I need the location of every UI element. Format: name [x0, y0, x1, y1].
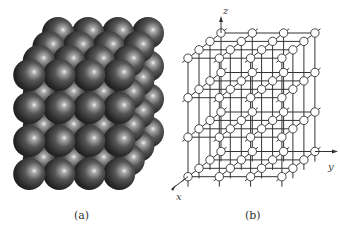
sphere: [73, 158, 105, 190]
sphere: [73, 59, 105, 91]
sphere: [43, 125, 75, 157]
lattice-node: [246, 54, 254, 62]
sphere: [13, 158, 45, 190]
lattice-node: [184, 133, 192, 141]
lattice-node: [311, 108, 319, 116]
lattice-node: [195, 85, 203, 93]
lattice-node: [268, 156, 276, 164]
lattice-node: [206, 37, 214, 45]
lattice-node: [226, 125, 234, 133]
lattice-node: [215, 133, 223, 141]
lattice-node: [289, 125, 297, 133]
lattice-node: [206, 77, 214, 85]
figure-canvas: zyx: [0, 0, 340, 236]
lattice-node: [257, 164, 265, 172]
lattice-node: [246, 94, 254, 102]
lattice-node: [289, 85, 297, 93]
lattice-node: [278, 173, 286, 181]
sphere: [73, 125, 105, 157]
lattice-node: [257, 85, 265, 93]
lattice-node: [300, 116, 308, 124]
lattice-node: [279, 29, 287, 37]
sphere: [103, 59, 135, 91]
lattice-node: [237, 37, 245, 45]
lattice-node: [195, 164, 203, 172]
lattice-node: [246, 173, 254, 181]
sphere: [43, 59, 75, 91]
lattice-node: [257, 125, 265, 133]
lattice-node: [237, 77, 245, 85]
lattice-node: [300, 77, 308, 85]
lattice-node: [215, 54, 223, 62]
lattice-node: [279, 68, 287, 76]
lattice-node: [215, 94, 223, 102]
lattice-node: [268, 77, 276, 85]
lattice-node: [248, 68, 256, 76]
lattice-node: [289, 164, 297, 172]
lattice-node: [206, 116, 214, 124]
lattice-node: [184, 54, 192, 62]
sphere: [103, 125, 135, 157]
sphere: [13, 125, 45, 157]
lattice-node: [217, 68, 225, 76]
lattice-node: [215, 173, 223, 181]
lattice-node: [184, 94, 192, 102]
lattice-node: [278, 94, 286, 102]
sphere: [13, 59, 45, 91]
lattice-node: [246, 133, 254, 141]
lattice-node: [195, 46, 203, 54]
lattice-node: [268, 116, 276, 124]
x-axis-label: x: [176, 191, 182, 202]
y-axis-label: y: [327, 161, 334, 172]
lattice-node: [248, 29, 256, 37]
sphere: [43, 158, 75, 190]
lattice-node: [257, 46, 265, 54]
sphere: [103, 158, 135, 190]
lattice-node: [278, 133, 286, 141]
figure: zyx (a) (b): [0, 0, 340, 236]
lattice-node: [237, 116, 245, 124]
lattice-node: [300, 156, 308, 164]
lattice-node: [300, 37, 308, 45]
caption-b: (b): [245, 209, 261, 222]
lattice-node: [278, 54, 286, 62]
lattice-node: [206, 156, 214, 164]
lattice-node: [226, 164, 234, 172]
x-axis: [171, 177, 188, 191]
caption-a: (a): [74, 209, 89, 222]
lattice-node: [237, 156, 245, 164]
lattice-panel: zyx: [171, 5, 338, 202]
sphere: [43, 92, 75, 124]
lattice-node: [289, 46, 297, 54]
lattice-node: [311, 29, 319, 37]
lattice-node: [248, 147, 256, 155]
lattice-node: [195, 125, 203, 133]
lattice-node: [226, 46, 234, 54]
sphere: [103, 92, 135, 124]
lattice-node: [279, 147, 287, 155]
sphere-packing-panel: [13, 17, 164, 190]
lattice-node: [311, 68, 319, 76]
sphere: [73, 92, 105, 124]
lattice-node: [268, 37, 276, 45]
lattice-node: [226, 85, 234, 93]
lattice-node: [279, 108, 287, 116]
z-axis-label: z: [222, 5, 229, 16]
lattice-node: [248, 108, 256, 116]
lattice-node: [217, 147, 225, 155]
lattice-node: [217, 108, 225, 116]
sphere: [13, 92, 45, 124]
